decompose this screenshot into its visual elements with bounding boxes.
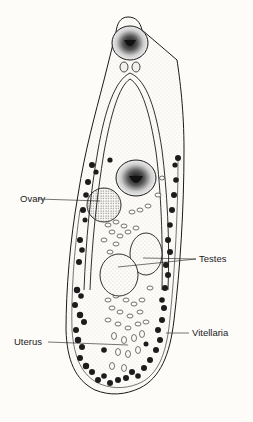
label-ovary: Ovary: [20, 194, 45, 204]
label-testes: Testes: [199, 254, 226, 264]
ovary: [87, 188, 121, 222]
oral-sucker: [112, 26, 148, 60]
label-vitellaria: Vitellaria: [192, 328, 228, 338]
fluke-illustration: [0, 0, 253, 422]
fluke-diagram: Ovary Testes Uterus Vitellaria: [0, 0, 253, 422]
label-uterus: Uterus: [14, 337, 42, 347]
ventral-sucker: [116, 160, 156, 196]
